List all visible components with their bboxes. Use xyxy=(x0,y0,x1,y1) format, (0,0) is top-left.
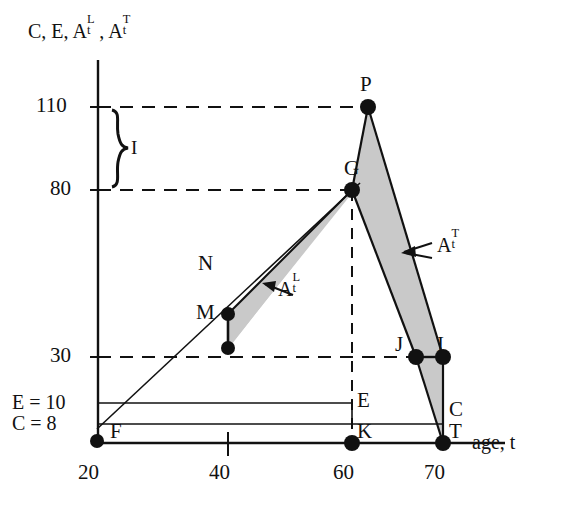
x-axis-title: age, t xyxy=(472,432,515,452)
xtick-label-20: 20 xyxy=(78,462,99,483)
point-marker-g[interactable] xyxy=(344,182,360,198)
ytick-label-30: 30 xyxy=(50,345,71,366)
y-axis-title-a1: A xyxy=(72,20,86,42)
brace-interval-i xyxy=(112,110,128,187)
point-label-g: G xyxy=(344,158,359,179)
level-label-e: E = 10 xyxy=(12,392,66,412)
brace-label-i: I xyxy=(131,138,137,157)
y-axis-title-prefix: C, E, xyxy=(28,20,72,42)
xtick-label-40: 40 xyxy=(209,462,230,483)
curve-annotation-at-base: A xyxy=(437,234,451,256)
point-label-m: M xyxy=(196,302,215,323)
xtick-label-60: 60 xyxy=(333,462,354,483)
point-label-c: C xyxy=(449,399,463,420)
point-label-t: T xyxy=(449,421,462,442)
y-axis-title-a2-scripts: Tt xyxy=(123,18,135,38)
point-marker-m[interactable] xyxy=(221,341,235,355)
point-marker-f[interactable] xyxy=(90,434,104,448)
point-label-p: P xyxy=(360,74,372,95)
curve-annotation-at: ATt xyxy=(437,232,464,255)
point-marker-j[interactable] xyxy=(408,349,424,365)
chart-figure: C, E, ALt, ATt age, t 110 80 30 20 40 60… xyxy=(0,0,582,514)
y-axis-title-a2: A xyxy=(108,20,122,42)
y-axis-title: C, E, ALt, ATt xyxy=(28,18,135,41)
shaded-region-al-fill xyxy=(228,190,353,348)
point-label-e: E xyxy=(357,390,370,411)
y-axis-title-a1-scripts: Lt xyxy=(87,18,99,38)
curve-annotation-al-base: A xyxy=(278,278,292,300)
curve-annotation-al: ALt xyxy=(278,276,305,299)
point-label-i: I xyxy=(437,334,444,355)
xtick-label-70: 70 xyxy=(424,462,445,483)
ytick-label-110: 110 xyxy=(36,95,67,116)
point-label-f: F xyxy=(110,421,122,442)
curve-al-lower xyxy=(97,183,360,429)
point-label-j: J xyxy=(395,334,403,355)
ytick-label-80: 80 xyxy=(50,178,71,199)
point-label-k: K xyxy=(357,421,372,442)
point-label-n: N xyxy=(198,253,213,274)
point-marker-n[interactable] xyxy=(221,307,235,321)
point-marker-p[interactable] xyxy=(360,99,376,115)
level-label-c: C = 8 xyxy=(12,413,57,433)
y-axis-title-sep: , xyxy=(99,20,108,42)
curve-annotation-at-scripts: Tt xyxy=(451,232,463,252)
curve-annotation-al-scripts: Lt xyxy=(292,276,304,296)
